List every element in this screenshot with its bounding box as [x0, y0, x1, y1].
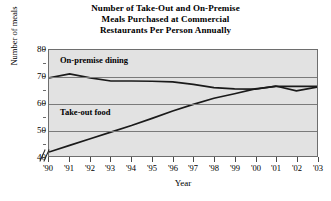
y-tick-mark-70: [42, 76, 46, 77]
gridline-70: [49, 77, 317, 78]
x-tick-mark-13: [318, 157, 319, 162]
y-tick-mark-80: [42, 49, 46, 50]
y-tick-mark-50: [42, 130, 46, 131]
x-tick-mark-4: [131, 157, 132, 162]
chart-title-line-2: Meals Purchased at Commercial: [0, 14, 331, 25]
x-tick-mark-7: [193, 157, 194, 162]
x-tick-mark-11: [276, 157, 277, 162]
y-minor-tick-55: [43, 117, 46, 118]
chart-figure: Number of Take-Out and On-Premise Meals …: [0, 0, 331, 201]
y-minor-tick-45: [43, 144, 46, 145]
gridline-50: [49, 131, 317, 132]
series-label-on-premise-dining: On-premise dining: [60, 55, 128, 65]
x-axis-tick-labels: '90'91'92'93'94'95'96'97'98'99'00'01'02'…: [48, 163, 318, 175]
x-tick-mark-12: [297, 157, 298, 162]
series-lines: [49, 50, 317, 156]
x-tick-mark-8: [214, 157, 215, 162]
chart-title-line-1: Number of Take-Out and On-Premise: [0, 3, 331, 14]
chart-title-line-3: Restaurants Per Person Annually: [0, 25, 331, 36]
x-tick-mark-0: [48, 157, 49, 162]
x-tick-label-13: '03: [305, 163, 331, 173]
x-tick-mark-3: [110, 157, 111, 162]
y-axis-ticks: 4050607080: [20, 49, 46, 157]
plot-area: On-premise dining Take-out food: [48, 49, 318, 157]
x-tick-mark-2: [90, 157, 91, 162]
x-axis-title: Year: [48, 178, 318, 188]
y-tick-mark-60: [42, 103, 46, 104]
x-tick-mark-9: [235, 157, 236, 162]
line-take-out-food: [49, 86, 317, 152]
x-tick-mark-6: [173, 157, 174, 162]
gridline-60: [49, 104, 317, 105]
x-tick-mark-5: [152, 157, 153, 162]
chart-title: Number of Take-Out and On-Premise Meals …: [0, 3, 331, 36]
y-minor-tick-75: [43, 63, 46, 64]
x-tick-mark-1: [69, 157, 70, 162]
y-axis-title: Number of meals: [9, 0, 19, 88]
x-tick-mark-10: [256, 157, 257, 162]
series-label-take-out-food: Take-out food: [60, 107, 110, 117]
y-minor-tick-65: [43, 90, 46, 91]
